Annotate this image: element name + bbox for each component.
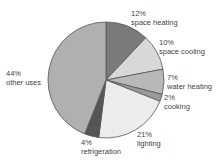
label-name: cooking [164, 103, 190, 112]
label-name: water heating [167, 83, 212, 92]
label-lighting: 21% lighting [137, 131, 161, 148]
label-name: space cooling [159, 48, 205, 57]
label-space-heating: 12% space heating [131, 10, 178, 27]
label-name: space heating [131, 19, 178, 28]
label-refrigeration: 4% refrigeration [81, 139, 121, 156]
label-water-heating: 7% water heating [167, 74, 212, 91]
label-name: refrigeration [81, 148, 121, 157]
label-name: lighting [137, 140, 161, 149]
label-name: other uses [6, 79, 41, 88]
label-cooking: 2% cooking [164, 94, 190, 111]
label-other-uses: 44% other uses [6, 70, 41, 87]
pie-slices [48, 22, 164, 138]
label-space-cooling: 10% space cooling [159, 39, 205, 56]
